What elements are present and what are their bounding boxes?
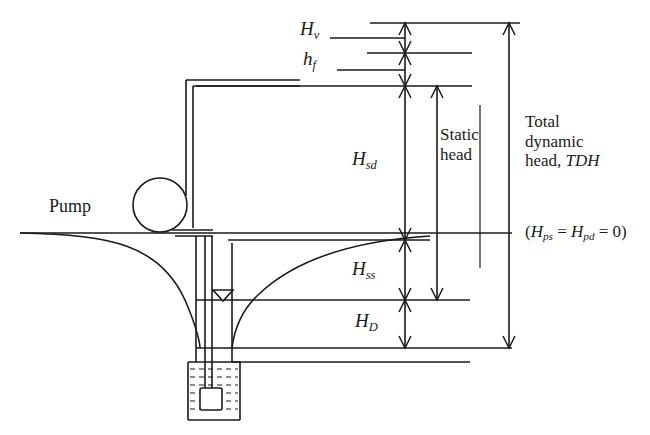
tdh-line2: dynamic — [525, 132, 600, 152]
drawdown-curve-left — [20, 233, 200, 348]
pump-casing-icon — [133, 178, 187, 232]
static-head-line2: head — [440, 145, 479, 165]
total-dynamic-head-bracket-label: Total dynamic head, TDH — [525, 112, 600, 171]
pump-head-schematic — [0, 0, 650, 435]
tdh-line1: Total — [525, 112, 600, 132]
drawdown-head-label: HD — [355, 310, 378, 334]
diagram-canvas: Hv hf Hsd Hss HD Static head Total dynam… — [0, 0, 650, 435]
pump-label: Pump — [49, 196, 91, 217]
static-discharge-head-label: Hsd — [352, 148, 377, 172]
friction-head-label: hf — [303, 48, 316, 72]
static-head-line1: Static — [440, 125, 479, 145]
submersible-pump-unit — [200, 388, 222, 410]
pressure-head-note: (Hps = Hpd = 0) — [525, 222, 627, 243]
tdh-line3: head, TDH — [525, 151, 600, 171]
velocity-head-label: Hv — [300, 18, 319, 42]
static-head-bracket-label: Static head — [440, 125, 479, 164]
static-suction-head-label: Hss — [352, 258, 376, 282]
